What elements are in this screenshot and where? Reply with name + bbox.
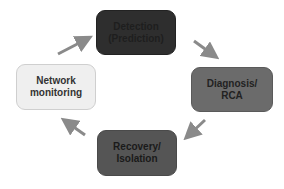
node-recovery: Recovery/ Isolation <box>97 130 177 176</box>
arrow-network-to-detection <box>58 40 85 54</box>
arrow-diagnosis-to-recovery <box>190 120 205 134</box>
node-network-monitoring: Network monitoring <box>16 64 96 110</box>
node-detection-label: Detection (Prediction) <box>108 21 164 45</box>
arrow-detection-to-diagnosis <box>194 41 212 54</box>
node-diagnosis: Diagnosis/ RCA <box>191 67 273 112</box>
node-detection: Detection (Prediction) <box>96 10 176 55</box>
node-recovery-label: Recovery/ Isolation <box>113 141 161 165</box>
arrow-recovery-to-network <box>68 123 85 135</box>
node-diagnosis-label: Diagnosis/ RCA <box>207 78 258 102</box>
node-network-label: Network monitoring <box>30 75 82 99</box>
